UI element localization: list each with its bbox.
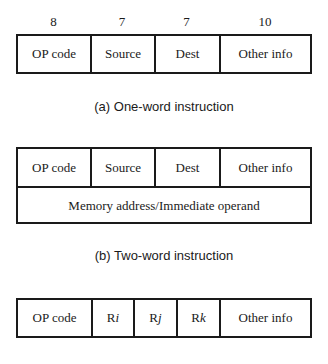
bit-width-dest: 7	[154, 14, 219, 30]
field-rk: Rk	[178, 300, 221, 336]
field-other-info: Other info	[221, 149, 310, 186]
field-memory-address-immediate: Memory address/Immediate operand	[18, 186, 310, 224]
bit-width-source: 7	[90, 14, 154, 30]
register-index: i	[116, 310, 120, 326]
field-other-info: Other info	[221, 300, 310, 336]
field-rj: Rj	[135, 300, 178, 336]
field-other-info-label: Other info	[239, 310, 293, 326]
three-register-instruction-box: OP code Ri Rj Rk Other info	[16, 298, 312, 338]
field-dest: Dest	[156, 36, 221, 72]
field-other-info: Other info	[221, 36, 310, 72]
bit-width-other: 10	[219, 14, 311, 30]
field-source: Source	[92, 149, 156, 186]
register-prefix: R	[107, 310, 116, 326]
caption-one-word: (a) One-word instruction	[0, 99, 328, 114]
field-opcode: OP code	[18, 300, 93, 336]
register-prefix: R	[149, 310, 158, 326]
field-source: Source	[92, 36, 156, 72]
field-opcode: OP code	[18, 149, 92, 186]
register-index: k	[200, 310, 206, 326]
field-opcode-label: OP code	[33, 310, 77, 326]
field-dest: Dest	[156, 149, 221, 186]
bit-width-opcode: 8	[17, 14, 90, 30]
register-prefix: R	[191, 310, 200, 326]
caption-two-word: (b) Two-word instruction	[0, 248, 328, 263]
field-opcode: OP code	[18, 36, 92, 72]
two-word-instruction-box: OP code Source Dest Other info Memory ad…	[16, 147, 312, 224]
field-ri: Ri	[93, 300, 135, 336]
one-word-instruction-box: OP code Source Dest Other info	[16, 34, 312, 74]
register-index: j	[158, 310, 162, 326]
